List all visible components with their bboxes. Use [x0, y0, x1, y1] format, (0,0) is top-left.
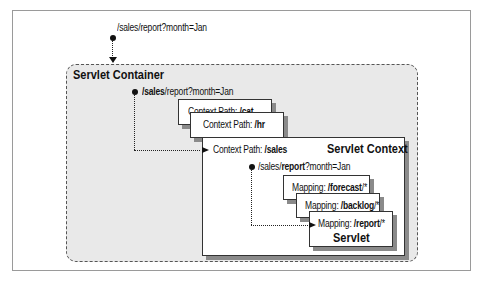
request-remainder: /report?month=Jan	[165, 86, 234, 97]
servlet-container-title: Servlet Container	[73, 68, 164, 82]
container-request-dot	[132, 89, 138, 95]
context-label-hr: Context Path: /hr	[203, 119, 265, 130]
mapping-label-report: Mapping: /report/*	[318, 218, 385, 229]
mapping-label-backlog: Mapping: /backlog/*	[305, 200, 379, 211]
container-request-url: /sales/report?month=Jan	[142, 86, 233, 97]
arrow-right-icon	[202, 147, 209, 153]
context-path-highlight: /sales	[142, 86, 165, 97]
context-connector-horizontal	[251, 225, 308, 226]
request-origin-dot	[110, 35, 116, 41]
context-connector-vertical	[251, 170, 252, 225]
request-connector-line	[112, 40, 113, 58]
container-connector-vertical	[134, 95, 135, 150]
incoming-request-url: /sales/report?month=Jan	[117, 22, 207, 33]
context-request-url: /sales/report?month=Jan	[258, 161, 350, 172]
servlet-label: Servlet	[333, 231, 370, 245]
arrow-down-icon	[109, 57, 117, 63]
arrow-right-icon	[309, 222, 316, 228]
mapping-label-forecast: Mapping: /forecast/*	[292, 182, 367, 193]
servlet-context-title: Servlet Context	[327, 142, 408, 156]
container-connector-horizontal	[134, 150, 200, 151]
context-label-sales: Context Path: /sales	[213, 144, 287, 155]
context-request-dot	[249, 164, 255, 170]
